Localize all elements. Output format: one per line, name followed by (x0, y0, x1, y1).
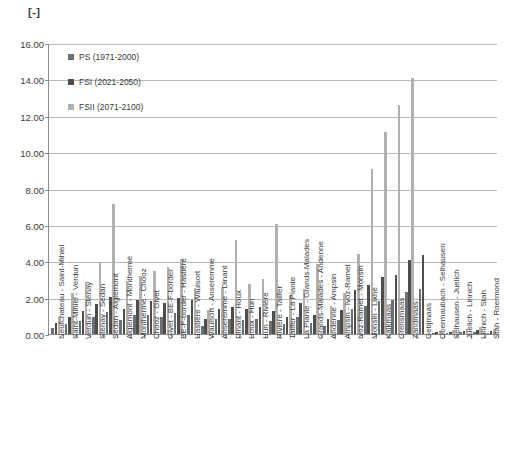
legend-label: FSI (2021-2050) (79, 77, 141, 87)
legend: PS (1971-2000)FSI (2021-2050)FSII (2071-… (68, 48, 143, 123)
y-axis-tick-label: 0.00 (26, 330, 45, 341)
x-axis-label: Zandmaas (412, 301, 420, 339)
x-axis-label: Waulsort - Anseremme (208, 258, 216, 339)
y-axis-tick-label: 6.00 (26, 220, 45, 231)
x-axis-label: Anseremme - Dinant (221, 266, 229, 339)
x-axis-label: Chooz - Givet (153, 290, 161, 339)
x-axis-label: Juelich - Linnich (466, 282, 474, 339)
x-axis-label: Andenne - Ampsin (330, 274, 338, 339)
unit-label: [-] (28, 6, 41, 18)
legend-swatch-icon (68, 79, 74, 85)
bar-fsii (411, 78, 414, 334)
x-axis-label: Obermaubach - Selhausen (439, 243, 447, 339)
y-axis-tick-label: 8.00 (26, 184, 45, 195)
x-axis-label: Linnich - Stah (480, 290, 488, 339)
bar-group (253, 44, 267, 334)
x-axis-label: Tailfer - La Plante (289, 277, 297, 339)
x-axis-label: Hun - Rivière (262, 292, 270, 339)
y-axis-tick-label: 4.00 (26, 257, 45, 268)
legend-item[interactable]: PS (1971-2000) (68, 48, 143, 66)
x-axis-label: La Plante - Grands-Malades (303, 239, 311, 339)
x-axis-label: Hastière - Waulsort (194, 271, 202, 339)
legend-label: FSII (2071-2100) (79, 102, 143, 112)
x-axis-label: Selhausen - Juelich (453, 269, 461, 339)
x-axis-label: Sedan - Aiglemont (112, 274, 120, 339)
x-axis-label: Verdun - Stenay (85, 282, 93, 339)
y-axis-tick-label: 12.00 (20, 111, 44, 122)
x-axis-label: Kalkmaas (385, 304, 393, 339)
x-axis-label: Ivoz-Ramet - Monsin (357, 265, 365, 339)
x-axis-label: Saint-Mihiel - Verdun (72, 265, 80, 339)
y-axis-tick-label: 14.00 (20, 75, 44, 86)
y-axis-tick-label: 2.00 (26, 293, 45, 304)
legend-swatch-icon (68, 54, 74, 60)
x-axis-label: Rivière - Tailfer (276, 286, 284, 339)
x-axis-label: Neufchateau - Saint-Mihiel (58, 245, 66, 339)
legend-item[interactable]: FSII (2071-2100) (68, 98, 143, 116)
bar-group (403, 44, 417, 334)
bar-ps (51, 328, 54, 334)
legend-item[interactable]: FSI (2021-2050) (68, 73, 143, 91)
y-axis-tick-label: 10.00 (20, 148, 44, 159)
x-axis-label: BE-F-border - Hastière (180, 258, 188, 339)
legend-swatch-icon (68, 104, 74, 110)
x-axis-label: Givet - BE-F-border (167, 269, 175, 339)
x-axis-label: Monthermé - Chooz (140, 268, 148, 339)
x-axis-label: Ampsin - Ivoz-Ramet (344, 264, 352, 339)
bar-group (416, 44, 430, 334)
x-axis-label: Aiglemont - Monthermé (126, 256, 134, 339)
legend-label: PS (1971-2000) (79, 52, 139, 62)
x-axis-label: Stenay - Sedan (99, 284, 107, 339)
y-axis-tick-mark (45, 335, 49, 336)
x-axis-label: Dinant - Houx (235, 290, 243, 339)
bar-group (389, 44, 403, 334)
x-axis-label: Stah - Roermond (493, 278, 501, 339)
y-axis-tick-label: 16.00 (20, 39, 44, 50)
x-axis-label: Houx - Hun (248, 299, 256, 339)
x-axis-label: Grensmaas (398, 298, 406, 339)
x-axis-label: Grands-Malades - Andenne (317, 241, 325, 339)
x-axis-label: Getijmaas (425, 303, 433, 339)
bar-chart: [-] 0.002.004.006.008.0010.0012.0014.001… (0, 0, 505, 451)
x-axis-label: Monsin - Lixhe (371, 287, 379, 339)
